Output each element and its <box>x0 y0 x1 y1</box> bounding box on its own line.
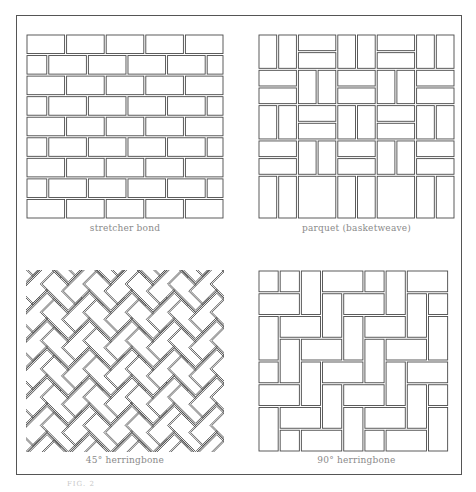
herringbone-90-caption: 90° herringbone <box>258 455 455 465</box>
footer-text: FIG. 2 <box>67 480 95 488</box>
parquet-caption: parquet (basketweave) <box>258 223 455 233</box>
stretcher-bond-pattern <box>26 34 224 219</box>
stretcher-bond-caption: stretcher bond <box>26 223 224 233</box>
herringbone-45-caption: 45° herringbone <box>26 455 224 465</box>
parquet-basketweave-pattern <box>258 34 455 219</box>
herringbone-45-pattern <box>26 270 224 452</box>
herringbone-90-pattern <box>258 270 455 452</box>
